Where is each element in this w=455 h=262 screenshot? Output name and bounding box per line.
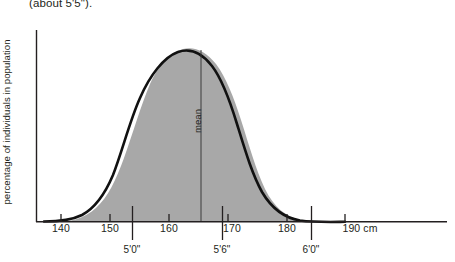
x-tick-label-6ft0in: 6'0" [303,244,320,256]
x-tick-label-5ft6in: 5'6" [214,244,231,256]
x-tick-label-170: 170 [223,222,241,234]
x-tick-label-160: 160 [160,222,178,234]
x-tick-label-140: 140 [52,222,70,234]
mean-annotation-label: mean [192,96,204,146]
x-tick-label-190-cm: 190 cm [342,222,377,234]
x-tick-label-150: 150 [101,222,119,234]
x-tick-label-5ft0in: 5'0" [124,244,141,256]
x-tick-label-180: 180 [278,222,296,234]
